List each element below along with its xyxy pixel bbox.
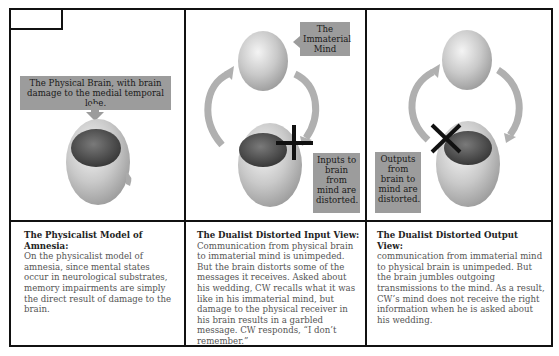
brain-head-icon (436, 121, 500, 207)
caption-body: communication from immaterial mind to ph… (377, 251, 545, 325)
caption-title: The Dualist Distorted Output View: (377, 230, 545, 251)
dualist-input-caption: The Dualist Distorted Input View: Commun… (197, 230, 361, 347)
caption-title: The Physicalist Model of Amnesia: (24, 230, 174, 251)
cycle-arrow-icon (498, 70, 519, 135)
row-divider (9, 220, 553, 222)
caption-body: On the physicalist model of amnesia, sin… (24, 251, 171, 314)
dualist-output-diagram (0, 0, 559, 220)
caption-title: The Dualist Distorted Input View: (197, 230, 361, 241)
cycle-arrow-icon (412, 72, 433, 140)
caption-body: Communication from physical brain to imm… (197, 241, 355, 346)
physicalist-caption: The Physicalist Model of Amnesia: On the… (24, 230, 174, 315)
output-distortion-label: Outputs from brain to mind are distorted… (375, 152, 421, 213)
mind-orb-icon (442, 30, 492, 90)
dualist-output-caption: The Dualist Distorted Output View: commu… (377, 230, 545, 325)
